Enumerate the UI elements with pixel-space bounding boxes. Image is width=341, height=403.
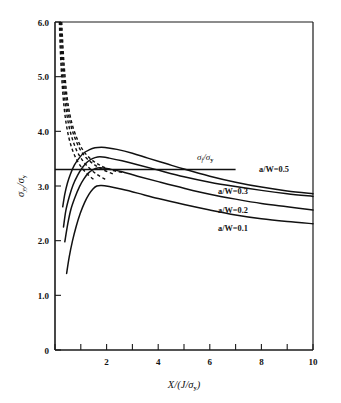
reference-line-label-group: σf/σy (197, 152, 214, 163)
x-close-paren: ) (196, 379, 201, 391)
curve-aw-01 (67, 185, 313, 273)
y-tick-label: 3.0 (38, 182, 50, 192)
hrr-asymptote-2-path (60, 22, 105, 179)
y-axis-label: σyy/σy (15, 174, 27, 197)
chart-plot-area: 6.0 5.0 4.0 3.0 2.0 1.0 0 2 4 6 8 10 (0, 0, 341, 403)
curve-labels: a/W=0.5 a/W=0.3 a/W=0.2 a/W=0.1 (218, 165, 289, 233)
y-tick-label: 6.0 (38, 18, 50, 28)
y-axis-label-group: σyy/σy (15, 174, 27, 197)
label-aw-01: a/W=0.1 (218, 224, 248, 233)
chart-figure: 6.0 5.0 4.0 3.0 2.0 1.0 0 2 4 6 8 10 (0, 0, 341, 403)
y-tick-label: 5.0 (38, 72, 50, 82)
y-tick-label: 2.0 (38, 236, 50, 246)
x-axis-label-group: X/(J/σy) (167, 379, 201, 391)
label-sigma-f: σf/σy (197, 152, 214, 163)
y-tick-label: 4.0 (38, 127, 50, 137)
x-tick-label: 4 (156, 357, 161, 367)
y-tick-label: 1.0 (38, 291, 50, 301)
hrr-asymptote-4-path (62, 22, 125, 173)
curve-aw-02 (65, 168, 313, 242)
x-tick-label: 10 (309, 357, 319, 367)
x-tick-label: 2 (104, 357, 109, 367)
y-axis-tick-labels: 6.0 5.0 4.0 3.0 2.0 1.0 0 (38, 18, 50, 356)
label-aw-05: a/W=0.5 (259, 165, 289, 174)
x-tick-label: 6 (208, 357, 213, 367)
x-tick-label: 8 (259, 357, 264, 367)
x-axis-tick-labels: 2 4 6 8 10 (104, 357, 318, 367)
label-aw-02: a/W=0.2 (218, 206, 248, 215)
y-tick-label: 0 (45, 346, 50, 356)
axes-frame (55, 22, 313, 350)
y-subscript: y (20, 174, 27, 178)
x-axis-label: X/(J/σy) (167, 379, 201, 391)
y-axis-ticks (55, 22, 61, 350)
hrr-asymptote-1-path (59, 22, 95, 181)
label-aw-03: a/W=0.3 (218, 187, 248, 196)
sigma-y-subscript: y (210, 156, 214, 163)
asymptote-curves (59, 22, 124, 181)
x-axis-ticks (55, 344, 313, 350)
